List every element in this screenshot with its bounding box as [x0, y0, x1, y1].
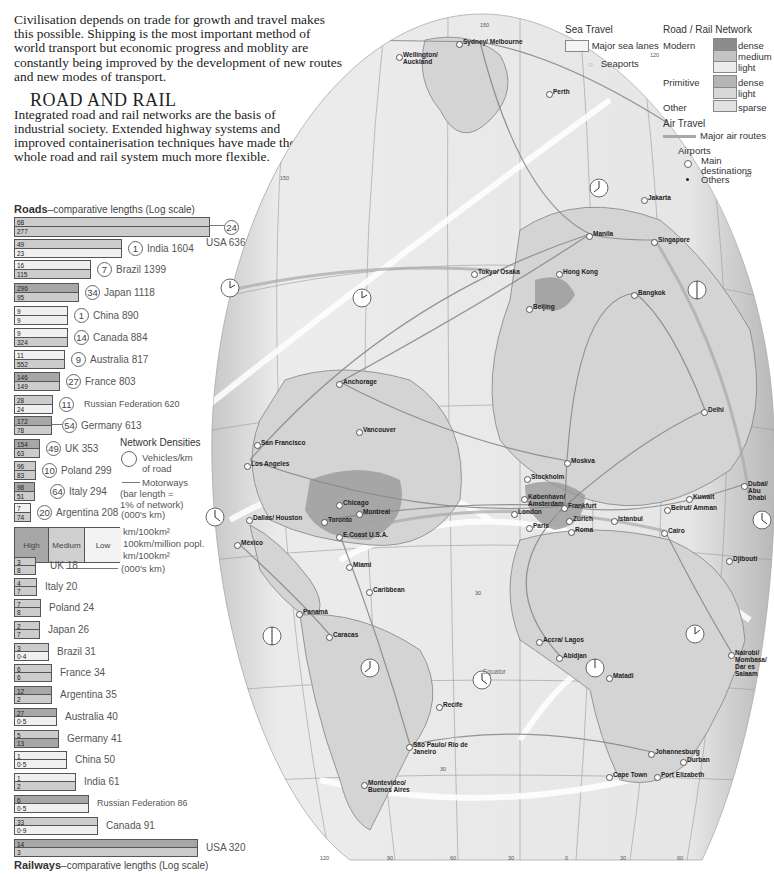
- city-label: Abidjan: [563, 652, 587, 659]
- airport-marker-icon: [680, 759, 687, 766]
- motorway-line-icon: [122, 482, 140, 483]
- city-label: E.Coast U.S.A.: [343, 531, 388, 538]
- rail-bar-top: 6: [15, 796, 88, 804]
- seaports-legend: ○ Seaports: [588, 58, 639, 69]
- airport-marker-icon: [726, 558, 733, 565]
- city-label: Los Angeles: [251, 460, 289, 467]
- graticule-label: 120: [650, 52, 659, 58]
- road-bar: 9683: [14, 461, 36, 480]
- city-label: Equator: [483, 668, 506, 675]
- level-medium: Medium: [49, 528, 85, 562]
- airport-marker-icon: [568, 529, 575, 536]
- city-label: Singapore: [658, 236, 690, 243]
- graticule-label: 30: [440, 766, 446, 772]
- rail-bar-top: 7: [15, 600, 40, 608]
- road-country-label: Japan 1118: [104, 287, 155, 298]
- rail-country-label: Italy 20: [45, 581, 77, 592]
- city-label: Bangkok: [638, 289, 665, 296]
- airport-marker-icon: [648, 751, 655, 758]
- city-label: Delhi: [708, 406, 724, 413]
- city-label: Stockholm: [531, 473, 564, 480]
- other-swatch: [713, 100, 737, 112]
- road-bar-top: 9: [15, 329, 67, 338]
- road-bar-bottom: 23: [15, 249, 121, 258]
- city-label: Nairobi/ Mombasa/ Dar es Salaam: [735, 649, 774, 677]
- airport-marker-icon: [641, 197, 648, 204]
- railways-chart-title: Railways–comparative lengths (Log scale): [14, 859, 208, 871]
- airport-marker-icon: [654, 774, 661, 781]
- city-label: Panamá: [303, 608, 328, 615]
- airport-marker-icon: [336, 534, 343, 541]
- road-bar-bottom: 9: [15, 316, 67, 325]
- road-bar-top: 68: [15, 218, 209, 227]
- graticule-label: 150: [480, 22, 489, 28]
- road-bar: 99: [14, 306, 68, 325]
- graticule-label: 60: [450, 855, 456, 861]
- road-country-label: Poland 299: [61, 465, 112, 476]
- city-label: Recife: [443, 701, 463, 708]
- road-bar: 15463: [14, 439, 40, 458]
- road-country-label: Brazil 1399: [116, 264, 166, 275]
- rail-bar-top: 33: [15, 818, 97, 826]
- airport-marker-icon: [321, 519, 328, 526]
- vehicles-per-km-circle: 9: [71, 352, 86, 367]
- road-country-label: Australia 817: [90, 354, 148, 365]
- graticule-label: 150: [280, 175, 289, 181]
- airport-marker-icon: [366, 589, 373, 596]
- airport-marker-icon: [741, 483, 748, 490]
- city-label: Matadi: [613, 672, 634, 679]
- city-label: Djibouti: [733, 555, 757, 562]
- map-graphic: [190, 0, 774, 874]
- airport-marker-icon: [566, 518, 573, 525]
- rail-bar: 12: [14, 773, 76, 791]
- rail-bar-bottom: 8: [15, 566, 35, 574]
- road-bar-bottom: 552: [15, 360, 64, 369]
- rail-bar: 10·5: [14, 751, 67, 769]
- city-label: Cairo: [668, 527, 685, 534]
- graticule-label: 60: [677, 855, 683, 861]
- city-label: Istanbul: [618, 515, 643, 522]
- road-bar: 4923: [14, 239, 122, 258]
- rail-bar-bottom: 7: [15, 587, 36, 595]
- vehicles-per-km-circle: 49: [46, 441, 61, 456]
- road-bar-top: 296: [15, 284, 78, 293]
- road-bar-bottom: 149: [15, 382, 59, 391]
- rail-bar: 330·9: [14, 817, 98, 835]
- city-label: Montevideo/ Buenos Aires: [368, 779, 428, 793]
- rail-country-label: UK 18: [50, 560, 78, 571]
- vehicles-per-km-circle: 54: [62, 418, 77, 433]
- rail-bar-bottom: 0·4: [15, 652, 48, 660]
- road-bar: 146149: [14, 372, 60, 391]
- sea-lanes-legend: Major sea lanes: [565, 40, 659, 52]
- rail-country-label: Argentina 35: [60, 689, 117, 700]
- air-travel-title: Air Travel: [663, 118, 705, 129]
- rail-country-label: Japan 26: [48, 624, 89, 635]
- road-country-label: Russian Federation 620: [84, 399, 180, 409]
- units-note: (000's km): [121, 509, 165, 520]
- rail-bar-bottom: 2: [15, 782, 75, 790]
- rail-bar-top: 3: [15, 644, 48, 652]
- road-bar: 17278: [14, 416, 52, 435]
- road-bar-top: 98: [15, 483, 34, 492]
- primitive-label: Primitive: [663, 77, 699, 88]
- city-label: Anchorage: [343, 378, 377, 385]
- city-label: México: [241, 539, 263, 546]
- airport-marker-icon: [521, 496, 528, 503]
- road-bar-bottom: 74: [15, 513, 30, 522]
- graticule-label: 30: [508, 855, 514, 861]
- city-label: Sydney/ Melbourne: [463, 38, 523, 45]
- rail-bar-bottom: 6: [15, 673, 51, 681]
- airport-marker-icon: [471, 271, 478, 278]
- other-label: Other: [663, 102, 687, 113]
- city-label: Caribbean: [373, 586, 405, 593]
- sea-lanes-label: Major sea lanes: [592, 40, 659, 51]
- airport-marker-icon: [436, 704, 443, 711]
- rail-bar-bottom: 8: [15, 608, 40, 616]
- road-bar: 9851: [14, 482, 35, 501]
- main-destinations-label: Main destinations: [701, 156, 761, 176]
- city-label: Manila: [593, 230, 613, 237]
- airport-marker-icon: [564, 460, 571, 467]
- roads-chart-title: Roads–comparative lengths (Log scale): [14, 203, 195, 215]
- other-airports-label: Others: [701, 174, 730, 185]
- road-bar-top: 11: [15, 351, 64, 360]
